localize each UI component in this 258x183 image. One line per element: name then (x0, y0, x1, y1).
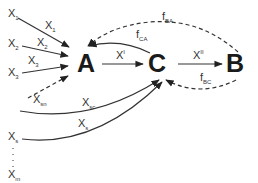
edge-label-x3: X3 (28, 54, 39, 68)
edge-label-xsc: Xsc (82, 96, 95, 110)
flow-diagram: A C B X1 X2 X3 Xs Xm X1 X2 X3 Xsn Xsc Xs… (0, 0, 258, 183)
input-label-x2: X2 (8, 37, 19, 51)
input-label-x3: X3 (8, 66, 19, 80)
edge-label-x2: X2 (37, 36, 48, 50)
edge-label-c-to-b: XII (193, 49, 204, 61)
edge-label-f-bc: fBC (200, 71, 212, 85)
edge-label-a-to-c: XI (116, 49, 125, 61)
edge-label-f-ca: fCA (136, 28, 147, 42)
node-b: B (226, 49, 244, 77)
node-c: C (148, 49, 166, 77)
node-a: A (77, 49, 95, 77)
input-label-x1: X1 (8, 7, 19, 21)
edge-label-f-ba: fBA (162, 10, 173, 24)
edge-feedback-ba (88, 22, 238, 52)
input-label-xs: Xs (8, 130, 18, 144)
edge-label-x1: X1 (45, 19, 56, 33)
edge-x3-to-a (22, 66, 68, 73)
input-label-xm: Xm (8, 168, 20, 182)
edge-label-xs: Xs (78, 117, 88, 131)
edge-label-xsn: Xsn (33, 93, 47, 107)
